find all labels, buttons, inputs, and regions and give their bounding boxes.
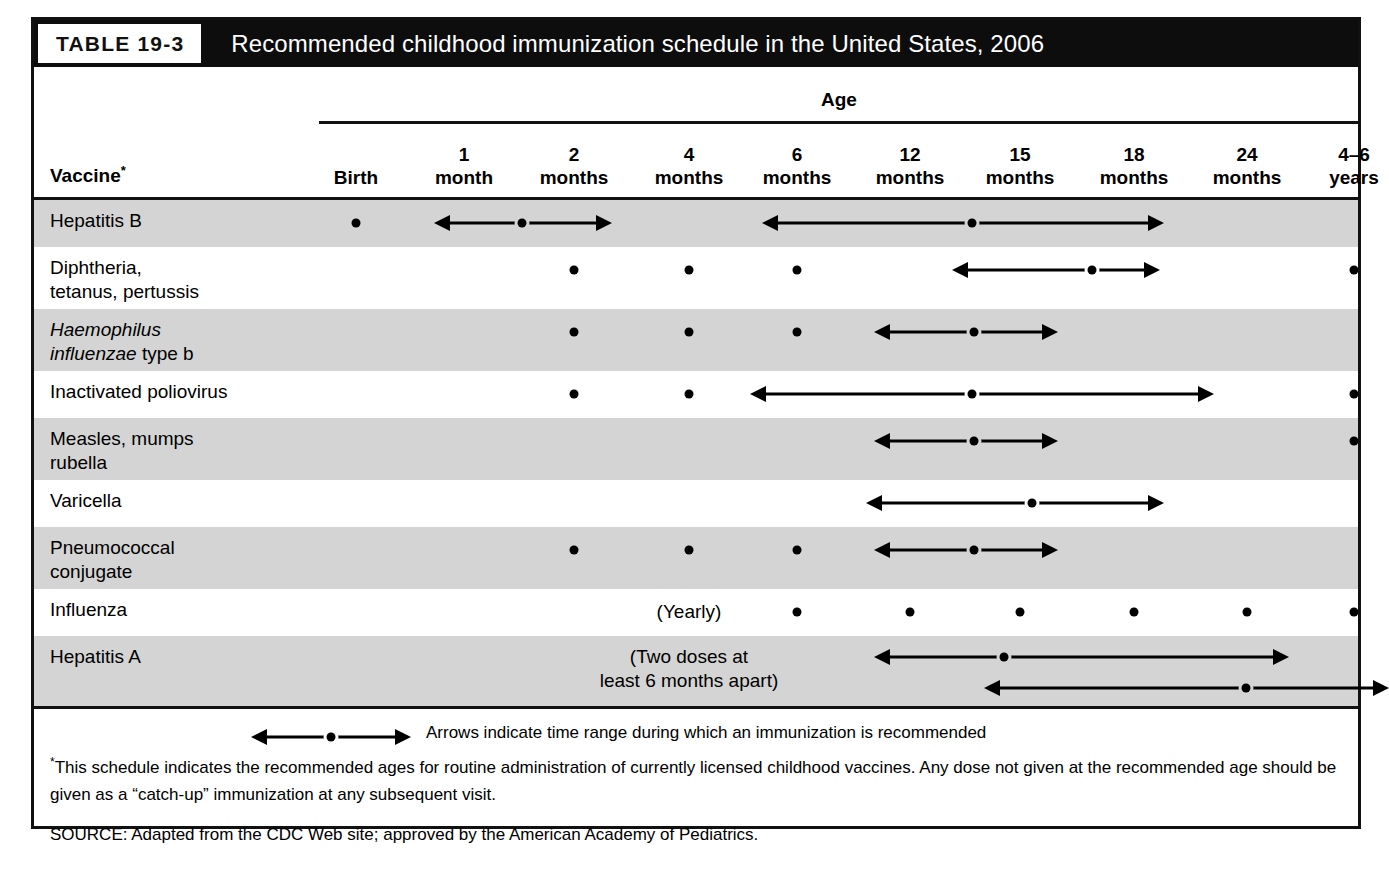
table-row: Measles, mumps rubella bbox=[34, 418, 1358, 480]
vaccine-footnote-marker: * bbox=[121, 163, 126, 178]
arrow-center-dot-icon bbox=[970, 437, 979, 446]
arrow-shaft bbox=[885, 331, 1047, 334]
table-row: Hepatitis B bbox=[34, 200, 1358, 247]
time-range-arrow bbox=[874, 322, 1058, 342]
age-column-header-birth: Birth bbox=[334, 167, 378, 189]
table-row: Diphtheria, tetanus, pertussis bbox=[34, 247, 1358, 309]
time-range-arrow bbox=[984, 678, 1389, 698]
arrow-center-dot-icon bbox=[327, 733, 336, 742]
table-row: Varicella bbox=[34, 480, 1358, 527]
age-column-header-m24: 24 months bbox=[1213, 144, 1282, 189]
table-title-bar: TABLE 19-3 Recommended childhood immuniz… bbox=[34, 20, 1358, 67]
arrow-center-dot-icon bbox=[1000, 653, 1009, 662]
arrow-head-right-icon bbox=[395, 729, 411, 745]
arrow-head-right-icon bbox=[1144, 262, 1160, 278]
dose-dot-icon bbox=[685, 328, 694, 337]
table-body: Hepatitis BDiphtheria, tetanus, pertussi… bbox=[34, 200, 1358, 706]
arrow-shaft bbox=[885, 549, 1047, 552]
dose-dot-icon bbox=[570, 328, 579, 337]
vaccine-column-label: Vaccine bbox=[50, 165, 121, 186]
dose-dot-icon bbox=[1350, 608, 1359, 617]
table-footnote: *This schedule indicates the recommended… bbox=[50, 753, 1340, 809]
vaccine-name: Pneumococcal conjugate bbox=[50, 536, 175, 585]
table-row: Hepatitis A(Two doses at least 6 months … bbox=[34, 636, 1358, 706]
vaccine-name: Hepatitis A bbox=[50, 645, 141, 669]
time-range-arrow bbox=[762, 213, 1164, 233]
vaccine-name-italic: Haemophilus influenzae bbox=[50, 319, 161, 364]
age-column-header-m12: 12 months bbox=[876, 144, 945, 189]
arrow-head-right-icon bbox=[1373, 680, 1389, 696]
vaccine-column-header: Vaccine* bbox=[50, 163, 126, 187]
arrow-head-right-icon bbox=[1042, 542, 1058, 558]
dose-dot-icon bbox=[793, 266, 802, 275]
table-header: Age Vaccine* Birth1 month2 months4 month… bbox=[34, 67, 1358, 200]
age-header-rule bbox=[319, 121, 1359, 124]
arrow-center-dot-icon bbox=[1028, 499, 1037, 508]
vaccine-name: Haemophilus influenzae type b bbox=[50, 318, 194, 367]
arrow-center-dot-icon bbox=[518, 219, 527, 228]
age-column-header-m4: 4 months bbox=[655, 144, 724, 189]
time-range-arrow bbox=[874, 540, 1058, 560]
dose-dot-icon bbox=[1243, 608, 1252, 617]
dose-dot-icon bbox=[570, 266, 579, 275]
dose-dot-icon bbox=[793, 328, 802, 337]
arrow-shaft bbox=[885, 440, 1047, 443]
dose-dot-icon bbox=[352, 219, 361, 228]
age-column-header-m15: 15 months bbox=[986, 144, 1055, 189]
dose-dot-icon bbox=[1016, 608, 1025, 617]
age-column-header-m2: 2 months bbox=[540, 144, 609, 189]
time-range-arrow bbox=[434, 213, 612, 233]
arrow-center-dot-icon bbox=[970, 546, 979, 555]
arrow-head-right-icon bbox=[1148, 495, 1164, 511]
arrow-head-right-icon bbox=[1042, 324, 1058, 340]
arrow-head-right-icon bbox=[596, 215, 612, 231]
time-range-arrow bbox=[750, 384, 1214, 404]
dose-dot-icon bbox=[570, 390, 579, 399]
footnote-text: This schedule indicates the recommended … bbox=[50, 758, 1336, 805]
dose-dot-icon bbox=[685, 390, 694, 399]
dose-dot-icon bbox=[685, 546, 694, 555]
vaccine-name: Hepatitis B bbox=[50, 209, 142, 233]
arrow-center-dot-icon bbox=[968, 219, 977, 228]
arrow-center-dot-icon bbox=[970, 328, 979, 337]
table-title: Recommended childhood immunization sched… bbox=[201, 20, 1044, 67]
arrow-shaft bbox=[761, 393, 1203, 396]
arrow-head-right-icon bbox=[1198, 386, 1214, 402]
time-range-arrow bbox=[866, 493, 1164, 513]
table-row: Pneumococcal conjugate bbox=[34, 527, 1358, 589]
vaccine-name: Influenza bbox=[50, 598, 127, 622]
dose-dot-icon bbox=[906, 608, 915, 617]
arrow-center-dot-icon bbox=[1088, 266, 1097, 275]
dose-dot-icon bbox=[685, 266, 694, 275]
arrow-head-right-icon bbox=[1148, 215, 1164, 231]
table-row: Inactivated poliovirus bbox=[34, 371, 1358, 418]
legend-arrow-icon bbox=[251, 727, 411, 747]
arrow-shaft bbox=[773, 222, 1153, 225]
age-column-header-m6: 6 months bbox=[763, 144, 832, 189]
vaccine-name: Diphtheria, tetanus, pertussis bbox=[50, 256, 199, 305]
table-source: SOURCE: Adapted from the CDC Web site; a… bbox=[50, 825, 758, 845]
vaccine-name: Varicella bbox=[50, 489, 121, 513]
dose-dot-icon bbox=[793, 608, 802, 617]
arrow-shaft bbox=[963, 269, 1149, 272]
row-note: (Yearly) bbox=[657, 600, 722, 624]
time-range-arrow bbox=[874, 647, 1289, 667]
table-footer: Arrows indicate time range during which … bbox=[34, 706, 1358, 867]
arrow-head-right-icon bbox=[1273, 649, 1289, 665]
arrow-shaft bbox=[995, 687, 1378, 690]
dose-dot-icon bbox=[1350, 390, 1359, 399]
dose-dot-icon bbox=[570, 546, 579, 555]
immunization-schedule-table: TABLE 19-3 Recommended childhood immuniz… bbox=[31, 17, 1361, 829]
table-row: Influenza(Yearly) bbox=[34, 589, 1358, 636]
time-range-arrow bbox=[874, 431, 1058, 451]
table-number-badge: TABLE 19-3 bbox=[38, 24, 201, 63]
arrow-shaft bbox=[885, 656, 1278, 659]
time-range-arrow bbox=[952, 260, 1160, 280]
dose-dot-icon bbox=[1130, 608, 1139, 617]
row-note: (Two doses at least 6 months apart) bbox=[600, 645, 778, 694]
dose-dot-icon bbox=[793, 546, 802, 555]
dose-dot-icon bbox=[1350, 266, 1359, 275]
age-column-header-m18: 18 months bbox=[1100, 144, 1169, 189]
table-row: Haemophilus influenzae type b bbox=[34, 309, 1358, 371]
vaccine-name: Measles, mumps rubella bbox=[50, 427, 194, 476]
